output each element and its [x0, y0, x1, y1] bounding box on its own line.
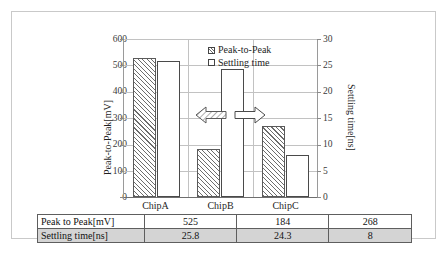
left-tickmark-600	[120, 39, 124, 40]
right-tick-30: 30	[323, 35, 349, 45]
data-table: Peak to Peak[mV] 525 184 268 Settling ti…	[37, 214, 412, 243]
left-tickmark-300	[120, 118, 124, 119]
right-tick-10: 10	[323, 140, 349, 150]
table-header-peak-to-peak: Peak to Peak[mV]	[38, 215, 145, 229]
chart-figure: Peak-to-Peak[mV] Settling time[ns] 600 5…	[0, 0, 448, 261]
table-row-peak-to-peak: Peak to Peak[mV] 525 184 268	[38, 215, 412, 229]
legend-item-peak-to-peak: Peak-to-Peak	[208, 44, 271, 57]
right-tick-15: 15	[323, 114, 349, 124]
category-label-chipa: ChipA	[123, 200, 188, 211]
right-tickmark-5	[317, 171, 321, 172]
bar-peak-to-peak-chipc	[262, 126, 285, 197]
right-tickmark-15	[317, 118, 321, 119]
table-cell-settling-chipb: 24.3	[237, 229, 329, 243]
left-tickmark-100	[120, 171, 124, 172]
left-tickmark-200	[120, 145, 124, 146]
table-row-settling-time: Settling time[ns] 25.8 24.3 8	[38, 229, 412, 243]
right-tick-25: 25	[323, 61, 349, 71]
left-tickmark-0	[120, 197, 124, 198]
legend-item-settling-time: Settling time	[208, 57, 271, 70]
right-tickmark-0	[317, 197, 321, 198]
left-axis-arrow-icon	[195, 105, 227, 125]
gridline-600	[124, 39, 317, 40]
table-cell-p2p-chipc: 268	[329, 215, 412, 229]
table-cell-p2p-chipb: 184	[237, 215, 329, 229]
legend-label-settling-time: Settling time	[218, 57, 269, 70]
bar-settling-time-chipb	[221, 69, 244, 197]
category-separator-1	[188, 39, 189, 197]
left-tickmark-400	[120, 92, 124, 93]
category-label-chipc: ChipC	[253, 200, 318, 211]
table-cell-settling-chipa: 25.8	[145, 229, 237, 243]
legend-label-peak-to-peak: Peak-to-Peak	[218, 44, 271, 57]
right-axis-arrow-icon	[234, 105, 266, 125]
right-tick-5: 5	[323, 167, 349, 177]
bar-settling-time-chipa	[157, 61, 180, 197]
figure-border: Peak-to-Peak[mV] Settling time[ns] 600 5…	[11, 11, 436, 239]
bar-peak-to-peak-chipb	[197, 149, 220, 197]
right-tickmark-20	[317, 92, 321, 93]
right-tick-20: 20	[323, 87, 349, 97]
legend-swatch-white-icon	[208, 59, 215, 66]
table-cell-p2p-chipa: 525	[145, 215, 237, 229]
bar-settling-time-chipc	[286, 155, 309, 197]
category-label-chipb: ChipB	[188, 200, 253, 211]
left-tickmark-500	[120, 65, 124, 66]
chart-legend: Peak-to-Peak Settling time	[208, 44, 271, 69]
right-tickmark-10	[317, 145, 321, 146]
right-tickmark-30	[317, 39, 321, 40]
bar-peak-to-peak-chipa	[133, 58, 156, 197]
plot-region: Peak-to-Peak[mV] Settling time[ns] 600 5…	[12, 12, 437, 240]
left-axis-title: Peak-to-Peak[mV]	[102, 100, 113, 175]
right-tick-0: 0	[323, 193, 349, 203]
table-header-settling-time: Settling time[ns]	[38, 229, 145, 243]
legend-swatch-hatched-icon	[208, 47, 215, 54]
table-cell-settling-chipc: 8	[329, 229, 412, 243]
right-tickmark-25	[317, 65, 321, 66]
